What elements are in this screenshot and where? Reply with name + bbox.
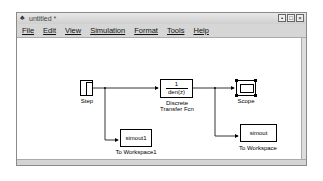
to-workspace1-block[interactable]: simout1 — [120, 129, 152, 147]
scope-block[interactable] — [236, 80, 256, 96]
tf-label-line2: Transfer Fcn — [160, 106, 194, 113]
menu-file[interactable]: File — [22, 26, 34, 35]
wire-step-to-workspace1 — [105, 88, 118, 140]
to-workspace-label: To Workspace — [239, 145, 277, 152]
model-canvas[interactable]: Step 1 den(z) Discrete Transfer Fcn Scop… — [17, 38, 302, 160]
selection-handle[interactable] — [235, 94, 238, 97]
to-workspace-block[interactable]: simout — [240, 124, 277, 142]
discrete-transfer-fcn-block[interactable]: 1 den(z) — [160, 79, 193, 98]
tf-denominator: den(z) — [161, 89, 192, 96]
to-workspace-variable: simout — [241, 130, 276, 137]
window-title: untitled * — [29, 14, 56, 23]
to-workspace1-label: To Workspace1 — [115, 149, 156, 156]
to-workspace1-variable: simout1 — [121, 135, 151, 142]
menu-view[interactable]: View — [65, 26, 81, 35]
minimize-button[interactable]: • — [278, 14, 286, 22]
selection-handle[interactable] — [254, 94, 257, 97]
window-controls: • □ × — [278, 14, 304, 22]
menu-bar: File Edit View Simulation Format Tools H… — [17, 24, 306, 38]
maximize-button[interactable]: □ — [287, 14, 295, 22]
simulink-model-window: ♣ untitled * • □ × File Edit View Simula… — [16, 12, 307, 166]
simulink-app-icon: ♣ — [20, 14, 27, 22]
status-bar — [17, 159, 306, 165]
step-icon — [86, 82, 93, 95]
close-button[interactable]: × — [296, 14, 304, 22]
menu-simulation[interactable]: Simulation — [90, 26, 125, 35]
menu-format[interactable]: Format — [134, 26, 158, 35]
scope-screen-icon — [240, 84, 254, 93]
tf-numerator: 1 — [161, 81, 192, 88]
step-block[interactable] — [80, 80, 93, 96]
signal-lines — [17, 38, 303, 162]
menu-tools[interactable]: Tools — [167, 26, 185, 35]
selection-handle[interactable] — [235, 79, 238, 82]
menu-help[interactable]: Help — [193, 26, 208, 35]
scope-label: Scope — [237, 98, 254, 105]
vertical-scrollbar[interactable] — [301, 38, 306, 160]
selection-handle[interactable] — [254, 79, 257, 82]
step-label: Step — [81, 98, 93, 105]
menu-edit[interactable]: Edit — [43, 26, 56, 35]
